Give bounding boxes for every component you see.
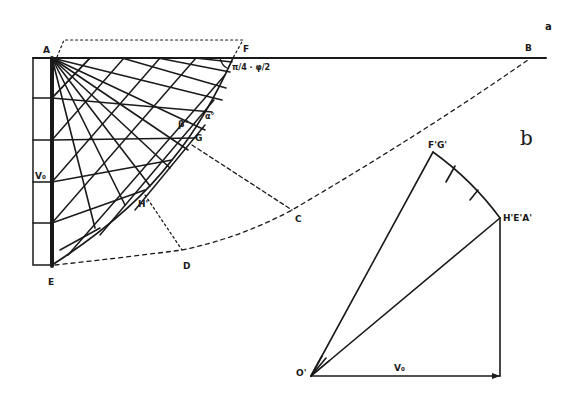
- label-point-G: G: [195, 134, 202, 143]
- label-wall-V0: V₀: [35, 172, 46, 181]
- hodograph-arc: [433, 152, 500, 218]
- arc-tick-1: [446, 166, 455, 182]
- slip-line-field-diagram: [0, 0, 574, 403]
- slip-line-family-1: [52, 58, 225, 255]
- label-point-C: C: [295, 215, 302, 224]
- dashed-curve-E-D-C-B: [55, 60, 528, 265]
- arc-tick-2: [470, 190, 478, 200]
- label-angle-beta: β°: [178, 120, 189, 129]
- label-angle-at-F: π/4 · φ/2: [232, 64, 270, 72]
- wall-segment-ticks: [33, 98, 52, 223]
- label-point-F: F: [243, 45, 249, 54]
- label-origin-O-prime: O': [296, 369, 306, 378]
- ray-O-FG: [311, 152, 433, 376]
- hodograph: [311, 152, 500, 376]
- angle-arc-at-F: [220, 58, 227, 68]
- dotted-surcharge-outline: [57, 40, 243, 58]
- label-point-D: D: [183, 262, 190, 271]
- label-angle-alpha: α°: [205, 113, 215, 121]
- label-point-HEA-prime: H'E'A': [503, 214, 532, 223]
- label-point-E: E: [48, 278, 54, 287]
- label-point-H: H': [138, 200, 148, 209]
- dashed-line-G-C: [192, 145, 292, 210]
- label-panel-b: b: [520, 128, 533, 148]
- label-point-A: A: [43, 46, 50, 55]
- label-base-V0: V₀: [394, 364, 405, 373]
- ray-O-HEA: [311, 218, 500, 376]
- radial-fan-lines: [52, 58, 233, 265]
- dashed-line-H-D: [145, 195, 182, 250]
- label-panel-a: a: [545, 22, 552, 32]
- failure-surface-arc: [52, 58, 233, 265]
- retaining-wall: [33, 58, 52, 265]
- label-point-B: B: [525, 44, 532, 53]
- label-point-FG-prime: F'G': [428, 141, 447, 150]
- arrowhead-V0: [492, 373, 500, 379]
